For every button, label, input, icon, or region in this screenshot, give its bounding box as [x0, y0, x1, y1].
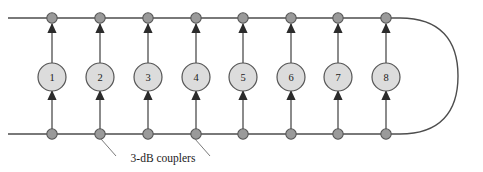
arrow-up-icon	[381, 23, 390, 33]
amplifier-node-2[interactable]: 2	[86, 63, 114, 91]
amplifier-node-8[interactable]: 8	[372, 63, 400, 91]
amplifier-label: 6	[288, 72, 293, 83]
caption-label: 3-dB couplers	[131, 152, 196, 165]
diagram-canvas: 1 2 3 4 5 6 7	[0, 0, 483, 172]
coupler-top-3[interactable]	[143, 13, 153, 23]
coupler-bottom-8[interactable]	[381, 129, 391, 139]
coupler-top-2[interactable]	[95, 13, 105, 23]
amplifier-node-6[interactable]: 6	[277, 63, 305, 91]
amplifier-label: 3	[145, 72, 150, 83]
coupler-bottom-1[interactable]	[47, 129, 57, 139]
arrow-up-icon	[191, 23, 200, 33]
amplifier-label: 1	[49, 72, 54, 83]
amplifier-node-5[interactable]: 5	[229, 63, 257, 91]
arrow-up-icon	[143, 23, 152, 33]
coupler-top-1[interactable]	[47, 13, 57, 23]
fiber-loop-amplifier-chain-diagram: 1 2 3 4 5 6 7	[0, 0, 483, 172]
amplifier-label: 4	[193, 72, 199, 83]
amplifier-node-7[interactable]: 7	[324, 63, 352, 91]
caption-leader-line-right	[195, 139, 210, 156]
coupler-top-5[interactable]	[238, 13, 248, 23]
arrow-up-icon	[286, 23, 295, 33]
amplifier-node-3[interactable]: 3	[134, 63, 162, 91]
amplifier-label: 2	[97, 72, 102, 83]
coupler-top-4[interactable]	[191, 13, 201, 23]
amplifier-label: 5	[240, 72, 245, 83]
amplifier-label: 7	[335, 72, 340, 83]
arrow-up-icon	[238, 23, 247, 33]
coupler-top-6[interactable]	[286, 13, 296, 23]
caption-group: 3-dB couplers	[101, 139, 210, 165]
arrow-up-icon	[47, 23, 56, 33]
caption-leader-line-left	[101, 139, 116, 156]
coupler-bottom-4[interactable]	[191, 129, 201, 139]
coupler-top-8[interactable]	[381, 13, 391, 23]
coupler-bottom-5[interactable]	[238, 129, 248, 139]
amplifier-node-4[interactable]: 4	[182, 63, 210, 91]
amplifier-node-1[interactable]: 1	[38, 63, 66, 91]
coupler-bottom-3[interactable]	[143, 129, 153, 139]
arrow-up-icon	[333, 23, 342, 33]
coupler-top-7[interactable]	[333, 13, 343, 23]
amplifier-label: 8	[383, 72, 388, 83]
amplifiers-group: 1 2 3 4 5 6 7	[38, 63, 400, 91]
arrow-up-icon	[95, 23, 104, 33]
coupler-bottom-2[interactable]	[95, 129, 105, 139]
right-loopback-curve	[400, 18, 458, 134]
coupler-bottom-7[interactable]	[333, 129, 343, 139]
coupler-bottom-6[interactable]	[286, 129, 296, 139]
